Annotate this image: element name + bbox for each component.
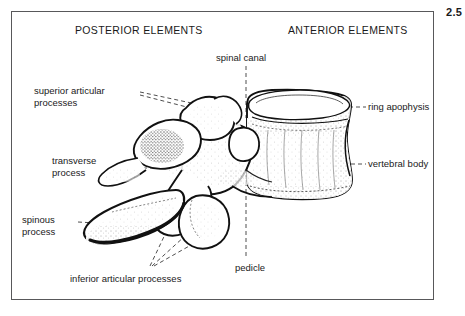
label-transverse-process: transverse process [52, 155, 96, 178]
spinous-process [82, 190, 190, 248]
label-spinous-process: spinous process [22, 214, 55, 237]
label-ring-apophysis: ring apophysis [368, 101, 429, 113]
label-superior-articular-line2: processes [34, 97, 77, 108]
label-spinous-line1: spinous [22, 214, 55, 225]
label-vertebral-body: vertebral body [368, 158, 428, 170]
label-transverse-line2: process [52, 167, 85, 178]
label-transverse-line1: transverse [52, 155, 96, 166]
vertebral-body-shape [247, 90, 357, 202]
label-spinous-line2: process [22, 226, 55, 237]
label-spinal-canal: spinal canal [216, 52, 266, 64]
label-superior-articular-line1: superior articular [34, 85, 105, 96]
figure-root: 2.5 POSTERIOR ELEMENTS ANTERIOR ELEMENTS [0, 0, 465, 316]
label-pedicle: pedicle [235, 262, 265, 274]
label-inferior-articular-processes: inferior articular processes [70, 273, 181, 285]
label-superior-articular-processes: superior articular processes [34, 85, 105, 108]
